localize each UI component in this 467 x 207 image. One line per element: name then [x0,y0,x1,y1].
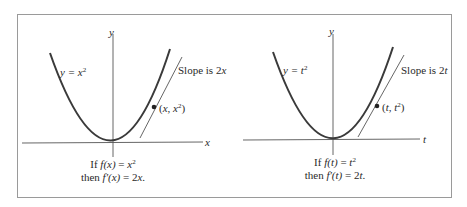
left-x-axis-label: x [205,136,210,148]
right-caption-line2: then f′(t) = 2t. [290,169,380,182]
left-y-axis-label: y [109,26,114,38]
right-tangent-point [375,104,380,109]
left-caption-line2: then f′(x) = 2x. [68,171,158,184]
right-caption-line1: If f(t) = t2 [290,156,380,169]
left-tangent-line [140,57,182,138]
left-slope-label: Slope is 2x [178,64,226,76]
left-x-axis [22,142,203,143]
left-caption-line1: If f(x) = x2 [68,158,158,171]
left-point-label: (x, x2) [159,102,185,114]
left-panel-graphics [22,34,203,157]
left-tangent-point [152,105,157,110]
right-y-axis-label: y [329,25,334,37]
right-caption: If f(t) = t2 then f′(t) = 2t. [290,156,380,182]
right-t-axis-label: t [423,133,426,145]
left-curve-label: y = x2 [60,66,86,78]
right-slope-label: Slope is 2t [401,64,447,76]
right-curve-label: y = t2 [283,64,307,76]
right-panel-graphics [243,34,420,155]
left-caption: If f(x) = x2 then f′(x) = 2x. [68,158,158,184]
right-tangent-line [358,55,404,137]
right-point-label: (t, t2) [382,101,404,113]
left-parabola [50,49,170,141]
